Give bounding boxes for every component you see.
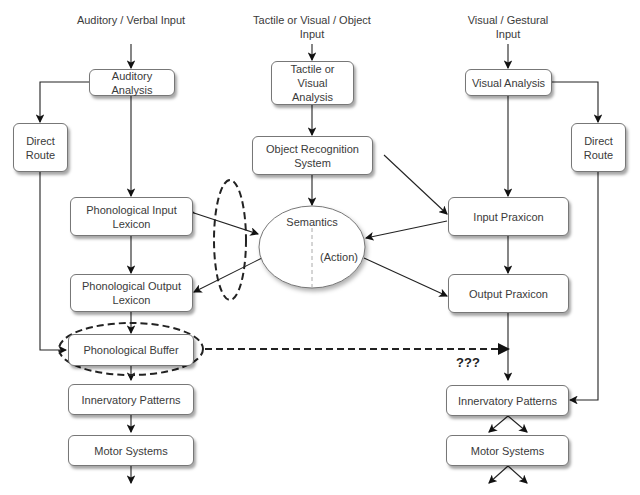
unknown-link-annotation: ??? — [456, 355, 480, 370]
input-praxicon-box: Input Praxicon — [448, 197, 569, 236]
left-motor-systems-box: Motor Systems — [68, 435, 194, 466]
right-motor-systems-box: Motor Systems — [446, 435, 569, 466]
right-direct-route-box: Direct Route — [571, 123, 626, 172]
output-praxicon-box: Output Praxicon — [448, 274, 569, 313]
tactile-input-label: Tactile or Visual / Object Input — [242, 13, 382, 41]
auditory-analysis-box: Auditory Analysis — [89, 69, 175, 96]
auditory-input-label: Auditory / Verbal Input — [66, 13, 196, 27]
left-innervatory-patterns-box: Innervatory Patterns — [68, 384, 194, 415]
phonological-input-lexicon-box: Phonological Input Lexicon — [70, 197, 193, 236]
object-recognition-system-box: Object Recognition System — [252, 136, 373, 175]
semantics-label: Semantics — [282, 215, 342, 229]
visual-input-label: Visual / Gestural Input — [463, 13, 553, 41]
phonological-buffer-box: Phonological Buffer — [68, 334, 194, 366]
action-label: (Action) — [314, 250, 364, 264]
tactile-visual-analysis-box: Tactile or Visual Analysis — [271, 61, 354, 105]
right-innervatory-patterns-box: Innervatory Patterns — [446, 385, 569, 416]
phonological-output-lexicon-box: Phonological Output Lexicon — [70, 274, 193, 312]
visual-analysis-box: Visual Analysis — [465, 69, 552, 96]
left-direct-route-box: Direct Route — [13, 123, 68, 172]
